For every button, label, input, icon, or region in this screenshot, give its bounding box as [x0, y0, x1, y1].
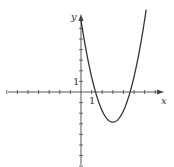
- y-axis-arrow-icon: [79, 14, 84, 21]
- x-unit-label: 1: [89, 95, 95, 106]
- parabola-graph: y x 1 1: [0, 0, 174, 167]
- y-axis-label: y: [70, 11, 77, 22]
- x-axis-label: x: [161, 95, 167, 106]
- y-unit-label: 1: [73, 76, 79, 87]
- x-axis-arrow-icon: [157, 90, 164, 95]
